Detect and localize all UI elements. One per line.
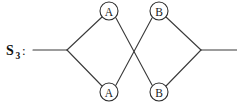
node-bottom-a[interactable]: A [100,83,118,101]
node-label-top-a: A [105,6,114,18]
edge-left-to-top-a [67,17,102,50]
state-label-base: S [6,43,14,58]
node-label-bottom-a: A [105,87,114,99]
state-label: S 3 : [6,43,26,61]
node-label-bottom-b: B [155,87,163,99]
trellis-canvas: S 3 : A B A B [0,0,237,105]
node-bottom-b[interactable]: B [150,83,168,101]
edge-top-b-to-right [166,17,201,50]
state-label-colon: : [22,43,26,58]
node-label-top-b: B [155,6,163,18]
node-top-b[interactable]: B [150,2,168,20]
edge-group [33,17,237,86]
state-label-subscript: 3 [16,51,21,61]
edge-left-to-bottom-a [67,50,102,86]
trellis-diagram: S 3 : A B A B [0,0,237,105]
edge-bottom-b-to-right [166,50,201,86]
node-top-a[interactable]: A [100,2,118,20]
